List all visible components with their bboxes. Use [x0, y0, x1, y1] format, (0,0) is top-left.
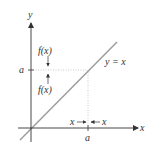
x-right-label: x [101, 116, 107, 127]
limit-diagram: y x y = x a a f(x) f(x) x x [0, 0, 152, 157]
x-tick-label: a [85, 132, 90, 143]
x-axis-label: x [139, 122, 145, 133]
line-label: y = x [104, 56, 126, 67]
fx-lower-label: f(x) [38, 84, 53, 96]
x-left-label: x [69, 116, 75, 127]
y-tick-label: a [19, 64, 24, 75]
fx-upper-label: f(x) [38, 45, 53, 57]
y-axis-label: y [27, 9, 33, 20]
